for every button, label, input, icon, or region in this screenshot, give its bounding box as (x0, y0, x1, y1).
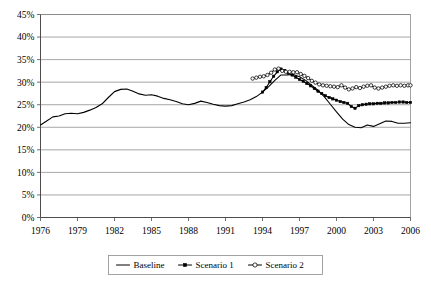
series-marker (262, 75, 265, 78)
chart-figure: 0%5%10%15%20%25%30%35%40%45% 19761979198… (0, 0, 431, 284)
series-marker (380, 102, 382, 104)
series-marker (277, 67, 280, 70)
series-marker (339, 100, 341, 102)
series-marker (318, 83, 321, 86)
series-marker (358, 86, 361, 89)
y-axis-ticks-group (37, 15, 41, 218)
series-marker (321, 84, 324, 87)
x-axis-tick-label: 1997 (290, 226, 309, 236)
series-marker (395, 84, 398, 87)
series-marker (383, 102, 385, 104)
series-marker (354, 107, 356, 109)
series-marker (299, 72, 302, 75)
series-marker (269, 71, 272, 74)
legend-marker (253, 263, 257, 267)
series-marker (403, 84, 406, 87)
chart-legend: BaselineScenario 1Scenario 2 (109, 256, 323, 275)
data-series-group (41, 67, 413, 128)
y-axis-tick-label: 0% (22, 213, 35, 223)
series-marker (276, 71, 278, 73)
series-marker (266, 73, 269, 76)
x-axis-tick-label: 2006 (401, 226, 420, 236)
series-marker (306, 76, 309, 79)
series-marker (321, 92, 323, 94)
series-marker (343, 86, 346, 89)
series-marker (251, 77, 254, 80)
y-axis-tick-label: 45% (17, 10, 35, 20)
series-marker (281, 69, 284, 72)
series-marker (343, 101, 345, 103)
series-marker (392, 84, 395, 87)
series-marker (398, 101, 400, 103)
legend-label-scenario-2: Scenario 2 (266, 260, 304, 270)
series-marker (329, 85, 332, 88)
legend-label-baseline: Baseline (134, 260, 165, 270)
series-marker (391, 101, 393, 103)
x-axis-tick-label: 1982 (105, 226, 124, 236)
y-axis-tick-label: 25% (17, 100, 35, 110)
series-marker (328, 96, 330, 98)
series-marker (284, 70, 287, 73)
series-marker (366, 84, 369, 87)
series-marker (314, 81, 317, 84)
line-chart-svg: 0%5%10%15%20%25%30%35%40%45% 19761979198… (0, 0, 431, 284)
series-marker (358, 104, 360, 106)
series-marker (317, 90, 319, 92)
x-axis-ticks-group (41, 218, 411, 222)
series-marker (336, 85, 339, 88)
series-marker (309, 85, 311, 87)
series-marker (365, 103, 367, 105)
x-axis-labels-group: 1976197919821985198819911994199720002003… (31, 226, 420, 236)
y-axis-labels-group: 0%5%10%15%20%25%30%35%40%45% (17, 10, 35, 223)
series-marker (388, 84, 391, 87)
series-marker (255, 76, 258, 79)
legend-label-scenario-1: Scenario 1 (196, 260, 234, 270)
series-marker (258, 75, 261, 78)
series-marker (303, 74, 306, 77)
series-marker (372, 103, 374, 105)
series-marker (272, 75, 274, 77)
series-marker (362, 85, 365, 88)
series-marker (295, 71, 298, 74)
series-marker (265, 86, 267, 88)
series-marker (399, 84, 402, 87)
series-marker (335, 99, 337, 101)
x-axis-tick-label: 2000 (327, 226, 346, 236)
series-marker (310, 79, 313, 82)
series-marker (350, 105, 352, 107)
series-marker (351, 87, 354, 90)
x-axis-tick-label: 1976 (31, 226, 50, 236)
series-marker (409, 84, 412, 87)
series-marker (306, 82, 308, 84)
x-axis-tick-label: 1988 (179, 226, 198, 236)
series-marker (409, 101, 411, 103)
plot-border-group (41, 15, 411, 218)
series-marker (288, 70, 291, 73)
series-marker (369, 84, 372, 87)
y-axis-tick-label: 40% (17, 32, 35, 42)
series-marker (346, 102, 348, 104)
y-axis-tick-label: 30% (17, 78, 35, 88)
series-marker (273, 68, 276, 71)
y-axis-tick-label: 20% (17, 123, 35, 133)
series-marker (261, 91, 263, 93)
series-marker (361, 104, 363, 106)
series-marker (402, 101, 404, 103)
y-axis-tick-label: 35% (17, 55, 35, 65)
series-marker (347, 88, 350, 91)
y-axis-tick-label: 10% (17, 168, 35, 178)
series-marker (373, 86, 376, 89)
y-axis-tick-label: 5% (22, 190, 35, 200)
series-marker (377, 87, 380, 90)
series-marker (340, 84, 343, 87)
x-axis-tick-label: 1985 (142, 226, 161, 236)
series-marker (313, 87, 315, 89)
series-marker (292, 71, 295, 74)
x-axis-tick-label: 1991 (216, 226, 235, 236)
plot-area-wrapper: 0%5%10%15%20%25%30%35%40%45% 19761979198… (0, 0, 431, 284)
series-marker (380, 86, 383, 89)
x-axis-tick-label: 1994 (253, 226, 272, 236)
series-marker (269, 81, 271, 83)
series-marker (325, 84, 328, 87)
x-axis-tick-label: 2003 (364, 226, 383, 236)
